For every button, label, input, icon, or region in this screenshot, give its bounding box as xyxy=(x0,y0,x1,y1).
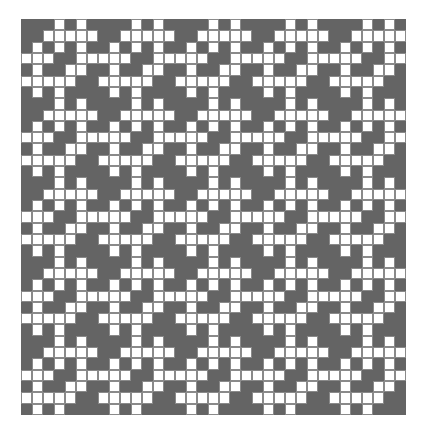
grid-cell-filled xyxy=(175,200,186,211)
grid-cell-empty xyxy=(131,42,142,53)
grid-cell-empty xyxy=(109,87,120,98)
grid-cell-empty xyxy=(208,166,219,177)
grid-cell-empty xyxy=(252,291,263,302)
grid-cell-filled xyxy=(252,268,263,279)
grid-cell-empty xyxy=(32,64,43,75)
grid-cell-filled xyxy=(373,336,384,347)
grid-cell-filled xyxy=(120,404,131,415)
grid-cell-filled xyxy=(98,223,109,234)
grid-cell-filled xyxy=(241,358,252,369)
grid-cell-filled xyxy=(197,257,208,268)
grid-cell-empty xyxy=(362,336,373,347)
grid-cell-empty xyxy=(230,98,241,109)
grid-cell-filled xyxy=(362,370,373,381)
grid-cell-filled xyxy=(373,200,384,211)
grid-cell-filled xyxy=(285,381,296,392)
grid-cell-filled xyxy=(296,87,307,98)
grid-cell-filled xyxy=(164,257,175,268)
grid-cell-empty xyxy=(87,53,98,64)
grid-cell-empty xyxy=(142,392,153,403)
grid-cell-filled xyxy=(120,257,131,268)
grid-cell-filled xyxy=(87,279,98,290)
grid-cell-filled xyxy=(65,200,76,211)
grid-cell-filled xyxy=(373,245,384,256)
grid-cell-empty xyxy=(340,223,351,234)
grid-cell-filled xyxy=(296,42,307,53)
grid-cell-empty xyxy=(87,347,98,358)
grid-cell-filled xyxy=(142,177,153,188)
grid-cell-filled xyxy=(395,336,406,347)
grid-cell-empty xyxy=(340,392,351,403)
grid-cell-filled xyxy=(296,132,307,143)
grid-cell-empty xyxy=(54,358,65,369)
grid-cell-filled xyxy=(98,87,109,98)
grid-cell-filled xyxy=(65,257,76,268)
grid-cell-empty xyxy=(109,200,120,211)
grid-cell-empty xyxy=(21,291,32,302)
grid-cell-filled xyxy=(307,76,318,87)
grid-cell-filled xyxy=(197,245,208,256)
grid-cell-empty xyxy=(54,177,65,188)
grid-cell-empty xyxy=(197,110,208,121)
grid-cell-empty xyxy=(142,381,153,392)
grid-cell-empty xyxy=(21,76,32,87)
grid-cell-filled xyxy=(373,358,384,369)
grid-cell-filled xyxy=(274,404,285,415)
grid-cell-empty xyxy=(186,76,197,87)
grid-cell-filled xyxy=(21,404,32,415)
grid-cell-empty xyxy=(109,392,120,403)
grid-cell-empty xyxy=(120,30,131,41)
grid-cell-filled xyxy=(219,166,230,177)
grid-cell-filled xyxy=(142,404,153,415)
grid-cell-filled xyxy=(120,19,131,30)
grid-cell-filled xyxy=(384,234,395,245)
grid-cell-empty xyxy=(32,121,43,132)
grid-cell-empty xyxy=(120,392,131,403)
grid-cell-filled xyxy=(296,53,307,64)
grid-cell-filled xyxy=(164,313,175,324)
grid-cell-empty xyxy=(384,200,395,211)
grid-cell-empty xyxy=(340,53,351,64)
grid-cell-empty xyxy=(329,392,340,403)
grid-cell-filled xyxy=(65,177,76,188)
grid-cell-filled xyxy=(186,110,197,121)
grid-cell-filled xyxy=(373,132,384,143)
grid-cell-filled xyxy=(329,257,340,268)
grid-cell-empty xyxy=(351,392,362,403)
grid-cell-filled xyxy=(263,268,274,279)
grid-cell-empty xyxy=(76,358,87,369)
grid-cell-empty xyxy=(340,358,351,369)
grid-cell-filled xyxy=(153,404,164,415)
grid-cell-empty xyxy=(131,19,142,30)
grid-cell-filled xyxy=(241,223,252,234)
grid-cell-empty xyxy=(186,381,197,392)
grid-cell-filled xyxy=(307,87,318,98)
grid-cell-filled xyxy=(21,30,32,41)
grid-cell-filled xyxy=(296,211,307,222)
grid-cell-empty xyxy=(307,64,318,75)
grid-cell-empty xyxy=(54,121,65,132)
grid-cell-filled xyxy=(98,257,109,268)
grid-cell-filled xyxy=(351,257,362,268)
grid-cell-empty xyxy=(32,245,43,256)
grid-cell-empty xyxy=(340,166,351,177)
grid-cell-filled xyxy=(252,64,263,75)
grid-cell-filled xyxy=(120,223,131,234)
grid-cell-empty xyxy=(252,392,263,403)
grid-cell-filled xyxy=(32,347,43,358)
grid-cell-empty xyxy=(153,381,164,392)
grid-cell-empty xyxy=(219,76,230,87)
grid-cell-filled xyxy=(21,223,32,234)
grid-cell-filled xyxy=(197,324,208,335)
grid-cell-filled xyxy=(175,257,186,268)
grid-cell-filled xyxy=(340,19,351,30)
grid-cell-empty xyxy=(153,42,164,53)
grid-cell-empty xyxy=(241,30,252,41)
grid-cell-empty xyxy=(296,76,307,87)
grid-cell-filled xyxy=(175,381,186,392)
grid-cell-empty xyxy=(76,381,87,392)
grid-cell-empty xyxy=(54,87,65,98)
grid-cell-empty xyxy=(208,279,219,290)
grid-cell-filled xyxy=(21,189,32,200)
grid-cell-empty xyxy=(21,211,32,222)
